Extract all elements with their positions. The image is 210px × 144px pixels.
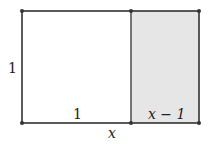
rectangle-diagram: 1 1 x − 1 x [0,0,210,144]
total-width-label: x [108,125,116,141]
left-side-label: 1 [8,60,17,76]
bottom-left-label: 1 [73,106,82,122]
bottom-right-label: x − 1 [148,106,185,122]
